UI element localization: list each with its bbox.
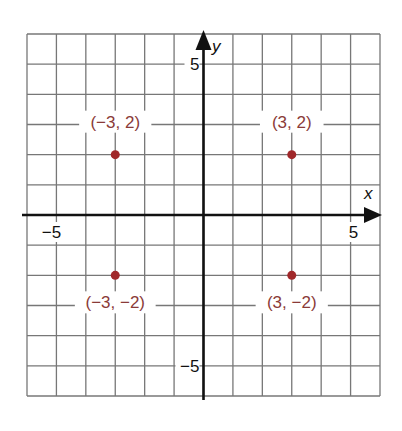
point-label: (3, 2) (272, 113, 312, 132)
data-points: (−3, 2)(3, 2)(−3, −2)(3, −2) (75, 111, 328, 314)
coordinate-plane: −555−5 (−3, 2)(3, 2)(−3, −2)(3, −2) x y (0, 0, 402, 431)
data-point (287, 271, 296, 280)
tick-label: 5 (349, 223, 358, 242)
data-point (111, 271, 120, 280)
y-axis-arrow-icon (196, 30, 212, 50)
x-axis-arrow-icon (364, 207, 382, 223)
data-point (287, 150, 296, 159)
point-label: (3, −2) (267, 293, 317, 312)
axes (22, 30, 382, 400)
tick-label: −5 (180, 357, 199, 376)
point-label: (−3, 2) (90, 113, 140, 132)
data-point (111, 150, 120, 159)
point-label: (−3, −2) (85, 293, 145, 312)
tick-label: 5 (190, 55, 199, 74)
x-axis-label: x (363, 184, 373, 203)
tick-label: −5 (42, 223, 61, 242)
y-axis-label: y (211, 37, 222, 56)
